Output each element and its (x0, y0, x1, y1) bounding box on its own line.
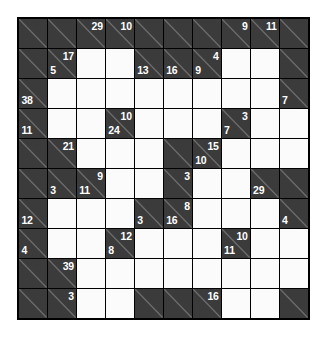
entry-cell[interactable] (135, 259, 163, 288)
diagonal-divider-icon (19, 169, 47, 198)
entry-cell[interactable] (106, 49, 134, 78)
entry-cell[interactable] (164, 229, 192, 258)
entry-cell[interactable] (222, 199, 250, 228)
entry-cell[interactable] (77, 259, 105, 288)
entry-cell[interactable] (193, 109, 221, 138)
entry-cell[interactable] (222, 259, 250, 288)
clue-cell: 816 (164, 199, 192, 228)
entry-cell[interactable] (106, 139, 134, 168)
block-cell (164, 289, 192, 318)
entry-cell[interactable] (280, 139, 308, 168)
down-clue: 10 (121, 111, 132, 122)
down-clue: 29 (92, 21, 103, 32)
entry-cell[interactable] (193, 79, 221, 108)
clue-cell: 175 (48, 49, 76, 78)
entry-cell[interactable] (222, 169, 250, 198)
entry-cell[interactable] (251, 79, 279, 108)
across-clue: 8 (108, 245, 114, 256)
entry-cell[interactable] (135, 229, 163, 258)
entry-cell[interactable] (164, 259, 192, 288)
down-clue: 9 (97, 171, 103, 182)
entry-cell[interactable] (77, 199, 105, 228)
entry-cell[interactable] (222, 49, 250, 78)
clue-cell: 1510 (193, 139, 221, 168)
block-cell (193, 19, 221, 48)
entry-cell[interactable] (48, 199, 76, 228)
block-cell (19, 289, 47, 318)
entry-cell[interactable] (77, 49, 105, 78)
entry-cell[interactable] (193, 169, 221, 198)
entry-cell[interactable] (106, 79, 134, 108)
entry-cell[interactable] (222, 289, 250, 318)
entry-cell[interactable] (251, 109, 279, 138)
across-clue: 3 (137, 215, 143, 226)
entry-cell[interactable] (106, 199, 134, 228)
clue-cell: 39 (48, 259, 76, 288)
entry-cell[interactable] (135, 139, 163, 168)
block-cell (164, 139, 192, 168)
entry-cell[interactable] (280, 259, 308, 288)
clue-cell: 29 (77, 19, 105, 48)
down-clue: 17 (63, 51, 74, 62)
entry-cell[interactable] (135, 169, 163, 198)
down-clue: 3 (184, 171, 190, 182)
entry-cell[interactable] (280, 229, 308, 258)
entry-cell[interactable] (48, 109, 76, 138)
entry-cell[interactable] (77, 229, 105, 258)
entry-cell[interactable] (251, 49, 279, 78)
clue-cell: 128 (106, 229, 134, 258)
entry-cell[interactable] (106, 169, 134, 198)
entry-cell[interactable] (164, 79, 192, 108)
entry-cell[interactable] (251, 229, 279, 258)
entry-cell[interactable] (164, 109, 192, 138)
block-cell (19, 169, 47, 198)
entry-cell[interactable] (135, 109, 163, 138)
diagonal-divider-icon (280, 169, 308, 198)
clue-cell: 3 (135, 199, 163, 228)
across-clue: 5 (50, 65, 56, 76)
clue-cell: 4 (280, 199, 308, 228)
entry-cell[interactable] (251, 139, 279, 168)
diagonal-divider-icon (280, 19, 308, 48)
entry-cell[interactable] (222, 139, 250, 168)
entry-cell[interactable] (106, 289, 134, 318)
clue-cell: 911 (77, 169, 105, 198)
entry-cell[interactable] (106, 259, 134, 288)
down-clue: 9 (242, 21, 248, 32)
clue-cell: 21 (48, 139, 76, 168)
entry-cell[interactable] (222, 79, 250, 108)
entry-cell[interactable] (193, 199, 221, 228)
across-clue: 38 (21, 95, 32, 106)
diagonal-divider-icon (19, 139, 47, 168)
entry-cell[interactable] (251, 289, 279, 318)
clue-cell: 11 (251, 19, 279, 48)
block-cell (280, 19, 308, 48)
diagonal-divider-icon (280, 289, 308, 318)
across-clue: 9 (195, 65, 201, 76)
kakuro-grid[interactable]: 2910911175131649387111024372115103911329… (17, 17, 310, 320)
entry-cell[interactable] (193, 229, 221, 258)
entry-cell[interactable] (77, 139, 105, 168)
clue-cell: 16 (164, 49, 192, 78)
down-clue: 12 (121, 231, 132, 242)
block-cell (19, 19, 47, 48)
block-cell (135, 19, 163, 48)
block-cell (280, 289, 308, 318)
entry-cell[interactable] (280, 109, 308, 138)
clue-cell: 29 (251, 169, 279, 198)
entry-cell[interactable] (77, 79, 105, 108)
entry-cell[interactable] (251, 199, 279, 228)
entry-cell[interactable] (48, 79, 76, 108)
entry-cell[interactable] (251, 259, 279, 288)
entry-cell[interactable] (193, 259, 221, 288)
entry-cell[interactable] (77, 289, 105, 318)
across-clue: 7 (224, 125, 230, 136)
across-clue: 11 (224, 245, 235, 256)
down-clue: 16 (207, 291, 218, 302)
entry-cell[interactable] (48, 229, 76, 258)
down-clue: 10 (236, 231, 247, 242)
clue-cell: 4 (19, 229, 47, 258)
entry-cell[interactable] (135, 79, 163, 108)
clue-cell: 11 (19, 109, 47, 138)
entry-cell[interactable] (77, 109, 105, 138)
